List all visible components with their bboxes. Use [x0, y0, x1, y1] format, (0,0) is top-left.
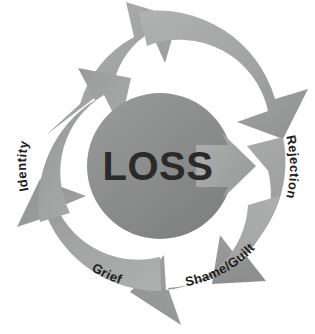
- segment-label-rejection: Rejection: [283, 134, 302, 201]
- cycle-diagram-canvas: Identity Rejection Shame/Guilt Grief LOS…: [0, 0, 315, 334]
- segment-label-identity: Identity: [14, 139, 31, 193]
- loss-cycle-diagram: Identity Rejection Shame/Guilt Grief LOS…: [0, 0, 315, 334]
- center-label: LOSS: [103, 144, 214, 188]
